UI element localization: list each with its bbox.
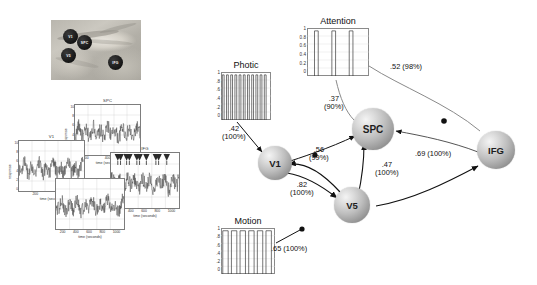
edge-label-attention-spc: .37 (90%) — [324, 95, 344, 112]
modulator-dot-motion — [299, 226, 304, 231]
edge-label-v1-v5: .82 (100%) — [290, 181, 314, 198]
node-spc-label: SPC — [363, 124, 384, 135]
node-v1[interactable]: V1 — [258, 146, 292, 180]
edge-label-photic-v1: .42 (100%) — [222, 125, 246, 142]
edge-label-attention-ifg: .52 (98%) — [390, 63, 422, 71]
node-v5-label: V5 — [346, 200, 358, 211]
edge-label-v1-spc: .56 (99%) — [309, 146, 329, 163]
node-v5[interactable]: V5 — [334, 187, 370, 223]
edge-motion-v1v5 — [276, 230, 300, 243]
edge-label-motion-v5: .65 (100%) — [271, 245, 307, 253]
connectivity-edges — [0, 0, 537, 285]
node-v1-label: V1 — [269, 158, 281, 169]
modulator-dot-attnifg — [441, 118, 447, 124]
node-ifg[interactable]: IFG — [477, 131, 515, 169]
node-spc[interactable]: SPC — [352, 108, 394, 150]
edge-label-v5-ifg: .69 (100%) — [415, 150, 451, 158]
edge-label-v5-spc: .47 (100%) — [375, 161, 399, 178]
node-ifg-label: IFG — [488, 145, 504, 156]
